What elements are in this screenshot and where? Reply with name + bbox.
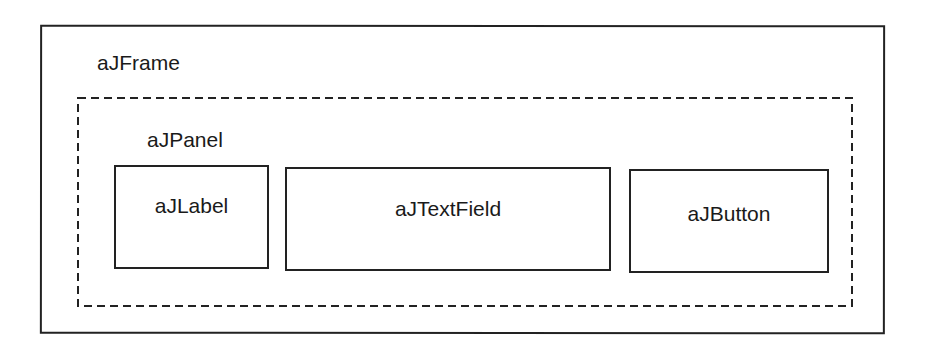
jtextfield-text: aJTextField <box>287 197 609 221</box>
jpanel-label: aJPanel <box>147 128 223 152</box>
jbutton-text: aJButton <box>631 202 827 226</box>
jlabel-box: aJLabel <box>114 165 269 269</box>
jtextfield-box: aJTextField <box>285 167 611 271</box>
jframe-label: aJFrame <box>97 51 180 75</box>
jlabel-text: aJLabel <box>116 194 267 218</box>
jbutton-box: aJButton <box>629 169 829 273</box>
